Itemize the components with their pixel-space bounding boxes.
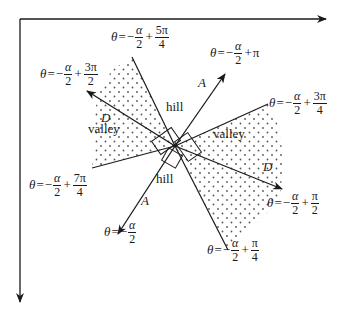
equation-pi-over-4: θ = − α2 + π4 [207, 237, 260, 263]
denominator: 2 [291, 204, 299, 217]
denominator: 2 [234, 54, 242, 67]
equals-sign: = [36, 177, 43, 193]
theta-symbol: θ [207, 242, 213, 258]
numerator: α [64, 61, 72, 75]
minus-sign: − [283, 195, 290, 211]
fraction-3pi-over-4: 3π4 [313, 90, 327, 116]
minus-sign: − [127, 29, 134, 45]
fraction-alpha-over-2: α2 [64, 61, 72, 87]
numerator: 3π [84, 61, 98, 75]
label-A-top: A [198, 76, 206, 89]
numerator: α [231, 237, 239, 251]
numerator: π [251, 237, 259, 251]
fraction-5pi-over-4: 5π4 [155, 24, 169, 50]
plus-sign: + [74, 66, 81, 82]
theta-symbol: θ [210, 45, 216, 61]
equals-sign: = [111, 224, 118, 240]
denominator: 2 [293, 104, 301, 117]
numerator: α [293, 90, 301, 104]
equation-pi-over-2: θ = − α2 + π2 [267, 190, 320, 216]
equation-3pi-over-4: θ = − α2 + 3π4 [269, 90, 328, 116]
fraction-alpha-over-2: α2 [53, 172, 61, 198]
minus-sign: − [223, 242, 230, 258]
denominator: 2 [311, 204, 319, 217]
minus-sign: − [45, 177, 52, 193]
equals-sign: = [47, 66, 54, 82]
pi-term: π [253, 45, 260, 61]
equation-7pi-over-4: θ = − α2 + 7π4 [29, 172, 88, 198]
numerator: π [311, 190, 319, 204]
numerator: 5π [155, 24, 169, 38]
fraction-alpha-over-2: α2 [231, 237, 239, 263]
label-valley-right: valley [213, 127, 245, 140]
equation-3pi-over-2: θ = − α2 + 3π2 [40, 61, 99, 87]
equals-sign: = [274, 195, 281, 211]
denominator: 2 [135, 38, 143, 51]
equals-sign: = [276, 95, 283, 111]
plus-sign: + [301, 195, 308, 211]
fraction-alpha-over-2: α2 [291, 190, 299, 216]
equation-5pi-over-4: θ = − α2 + 5π4 [111, 24, 170, 50]
denominator: 4 [76, 186, 84, 199]
denominator: 4 [158, 38, 166, 51]
minus-sign: − [285, 95, 292, 111]
denominator: 4 [316, 104, 324, 117]
denominator: 2 [64, 75, 72, 88]
theta-symbol: θ [269, 95, 275, 111]
equals-sign: = [214, 242, 221, 258]
numerator: α [291, 190, 299, 204]
fraction-3pi-over-2: 3π2 [84, 61, 98, 87]
fraction-pi-over-4: π4 [251, 237, 259, 263]
plus-sign: + [241, 242, 248, 258]
denominator: 4 [251, 251, 259, 264]
label-hill-bottom: hill [156, 172, 173, 185]
fraction-alpha-over-2: α2 [293, 90, 301, 116]
numerator: 7π [73, 172, 87, 186]
numerator: α [135, 24, 143, 38]
equals-sign: = [217, 45, 224, 61]
theta-symbol: θ [267, 195, 273, 211]
plus-sign: + [145, 29, 152, 45]
equals-sign: = [118, 29, 125, 45]
plus-sign: + [244, 45, 251, 61]
theta-symbol: θ [104, 224, 110, 240]
fraction-alpha-over-2: α2 [135, 24, 143, 50]
label-A-bottom: A [141, 194, 149, 207]
fraction-alpha-over-2: α2 [234, 40, 242, 66]
denominator: 2 [87, 75, 95, 88]
theta-symbol: θ [111, 29, 117, 45]
numerator: 3π [313, 90, 327, 104]
label-hill-top: hill [166, 100, 183, 113]
minus-sign: − [120, 224, 127, 240]
equation-zero: θ = − α2 [104, 219, 137, 245]
denominator: 2 [231, 251, 239, 264]
fraction-alpha-over-2: α2 [128, 219, 136, 245]
fraction-pi-over-2: π2 [311, 190, 319, 216]
theta-symbol: θ [29, 177, 35, 193]
equation-pi: θ = − α2 + π [210, 40, 259, 66]
numerator: α [53, 172, 61, 186]
denominator: 2 [128, 233, 136, 246]
label-D-left: D [101, 111, 110, 124]
fraction-7pi-over-4: 7π4 [73, 172, 87, 198]
denominator: 2 [53, 186, 61, 199]
plus-sign: + [63, 177, 70, 193]
minus-sign: − [56, 66, 63, 82]
minus-sign: − [226, 45, 233, 61]
numerator: α [234, 40, 242, 54]
plus-sign: + [303, 95, 310, 111]
theta-symbol: θ [40, 66, 46, 82]
numerator: α [128, 219, 136, 233]
label-D-right: D [263, 160, 272, 173]
diagram-canvas [0, 0, 353, 312]
